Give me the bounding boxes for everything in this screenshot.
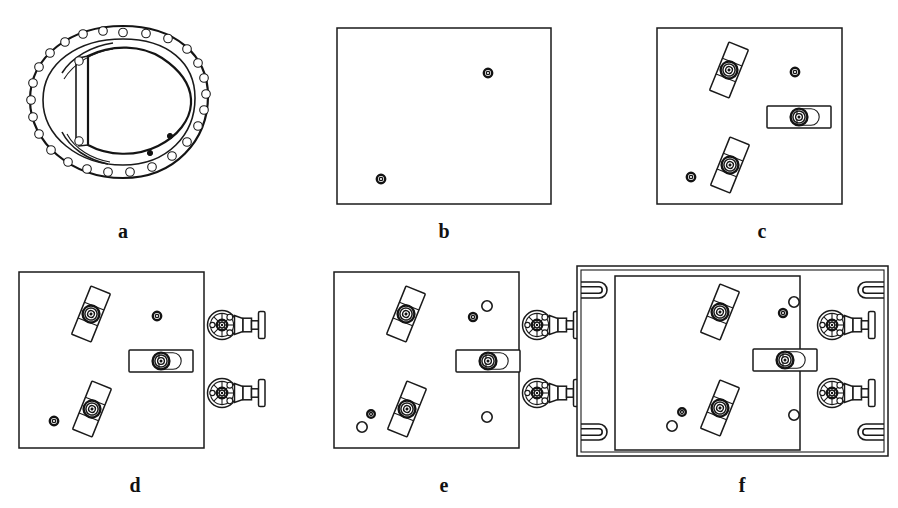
panel-label-b: b xyxy=(438,220,449,242)
plate-b xyxy=(337,28,551,204)
clamp-middle-d xyxy=(129,350,193,372)
clamp-middle-f xyxy=(753,349,817,371)
figure-root: a b c xyxy=(0,0,898,508)
clamp-middle-c xyxy=(767,106,831,128)
panel-label-d: d xyxy=(129,474,140,496)
panel-label-c: c xyxy=(758,220,767,242)
panel-label-f: f xyxy=(739,474,746,496)
panel-label-e: e xyxy=(440,474,449,496)
panel-label-a: a xyxy=(118,220,128,242)
assembly-figure-svg: a b c xyxy=(0,0,898,508)
clamp-middle-e xyxy=(456,350,520,372)
